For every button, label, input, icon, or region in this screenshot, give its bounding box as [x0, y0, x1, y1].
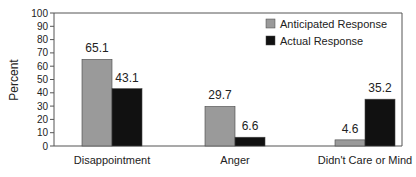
bar	[235, 137, 265, 146]
legend-swatch	[266, 36, 275, 45]
y-tick-label: 90	[37, 21, 49, 32]
bar	[205, 106, 235, 146]
bar-value-label: 6.6	[242, 119, 259, 133]
y-axis-label: Percent	[7, 59, 21, 101]
y-tick-label: 0	[42, 141, 48, 152]
x-category-label: Anger	[220, 154, 250, 166]
bar-value-label: 43.1	[115, 71, 139, 85]
bar	[365, 99, 395, 146]
y-tick-label: 80	[37, 34, 49, 45]
x-category-label: Disappointment	[74, 154, 150, 166]
y-tick-label: 30	[37, 101, 49, 112]
y-tick-label: 70	[37, 47, 49, 58]
bar-value-label: 65.1	[85, 41, 109, 55]
bars: 65.143.129.76.64.635.2	[82, 41, 395, 146]
y-tick-label: 20	[37, 114, 49, 125]
y-tick-label: 10	[37, 127, 49, 138]
bar	[112, 89, 142, 146]
legend-swatch	[266, 19, 275, 28]
y-tick-label: 100	[31, 8, 48, 19]
bar-value-label: 35.2	[368, 81, 392, 95]
bar-value-label: 4.6	[342, 122, 359, 136]
legend: Anticipated ResponseActual Response	[266, 18, 387, 47]
bar	[82, 59, 112, 146]
x-axis-labels: DisappointmentAngerDidn't Care or Mind	[74, 154, 412, 166]
bar-chart: 0102030405060708090100 Percent 65.143.12…	[0, 0, 416, 177]
x-category-label: Didn't Care or Mind	[318, 154, 412, 166]
bar-value-label: 29.7	[208, 88, 232, 102]
y-tick-label: 60	[37, 61, 49, 72]
bar	[335, 140, 365, 146]
y-tick-label: 50	[37, 74, 49, 85]
y-tick-label: 40	[37, 87, 49, 98]
y-axis: 0102030405060708090100	[31, 8, 54, 152]
legend-label: Anticipated Response	[280, 18, 387, 30]
legend-label: Actual Response	[280, 35, 363, 47]
